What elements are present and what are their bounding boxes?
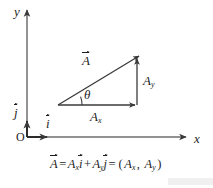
resultant-vector-label: A bbox=[82, 54, 90, 67]
angle-arc bbox=[81, 97, 82, 105]
vector-equation: A=Axi+Ayj=(Ax, Ay) bbox=[0, 157, 213, 172]
x-component-label: Ax bbox=[90, 110, 102, 125]
vector-accent-arrow-icon bbox=[50, 155, 58, 156]
y-axis-label: y bbox=[14, 5, 20, 18]
vector-accent-arrow-icon bbox=[14, 104, 18, 105]
unit-vector-i-label: i bbox=[46, 117, 50, 130]
unit-vector-j-label: j bbox=[14, 106, 18, 119]
vector-accent-arrow-icon bbox=[103, 155, 106, 156]
origin-label: O bbox=[16, 131, 25, 143]
x-axis-label: x bbox=[194, 132, 200, 145]
resultant-vector-arrow bbox=[58, 56, 139, 105]
vector-accent-arrow-icon bbox=[46, 115, 50, 116]
angle-label: θ bbox=[84, 88, 90, 101]
vector-accent-arrow-icon bbox=[82, 52, 90, 53]
vector-accent-arrow-icon bbox=[78, 155, 81, 156]
y-component-label: Ay bbox=[143, 74, 155, 89]
vector-decomposition-figure: y x O j i A Ax Ay θ A=Axi+Ayj=(Ax, Ay) bbox=[0, 0, 213, 188]
page-edge-artifact bbox=[168, 178, 213, 185]
